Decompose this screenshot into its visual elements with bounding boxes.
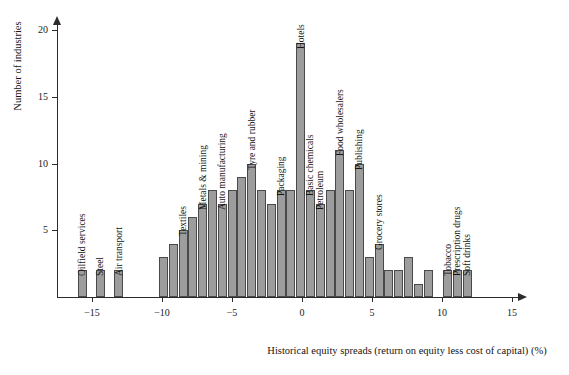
- histogram-bar: [277, 190, 286, 297]
- x-axis-tick-label: 10: [427, 307, 457, 318]
- y-axis-tick-label: 20: [22, 25, 48, 35]
- histogram-bar: [365, 257, 374, 297]
- histogram-bar: [286, 190, 295, 297]
- histogram-bar: [345, 190, 354, 297]
- histogram-bar: [414, 284, 423, 297]
- histogram-bar: [375, 244, 384, 297]
- histogram-bar: [179, 230, 188, 297]
- bar-category-label: Publishing: [354, 129, 364, 170]
- histogram-bar: [335, 150, 344, 297]
- x-axis-tick: [372, 297, 373, 302]
- histogram-bar: [188, 217, 197, 297]
- x-axis-tick: [232, 297, 233, 302]
- bar-category-label: Oilfield services: [77, 214, 87, 277]
- histogram-bar: [198, 204, 207, 297]
- bar-category-label: Basic chemicals: [305, 135, 315, 196]
- histogram-bar: [218, 204, 227, 297]
- bar-category-label: Auto manufacturing: [217, 133, 227, 210]
- histogram-bar: [355, 164, 364, 298]
- histogram-figure: 5101520−15−10−5051015Oilfield servicesSt…: [0, 0, 569, 375]
- bar-category-label: Air transport: [114, 227, 124, 276]
- y-axis-tick: [52, 30, 57, 31]
- histogram-bar: [384, 270, 393, 297]
- x-axis-title: Historical equity spreads (return on equ…: [245, 345, 569, 357]
- y-axis-line: [57, 24, 58, 298]
- histogram-bar: [404, 257, 413, 297]
- y-axis-title: Number of industries: [12, 1, 24, 131]
- histogram-bar: [208, 190, 217, 297]
- y-axis-tick-label: 10: [22, 159, 48, 169]
- histogram-bar: [237, 177, 246, 297]
- bar-category-label: Grocery stores: [374, 194, 384, 250]
- bar-category-label: Petroleum: [315, 170, 325, 209]
- x-axis-tick: [302, 297, 303, 302]
- y-axis-arrow-icon: [53, 16, 61, 25]
- bar-category-label: Textiles: [178, 206, 188, 236]
- x-axis-tick-label: −5: [217, 307, 247, 318]
- x-axis-tick: [512, 297, 513, 302]
- x-axis-line: [57, 297, 519, 298]
- plot-area: 5101520−15−10−5051015Oilfield servicesSt…: [0, 0, 569, 375]
- histogram-bar: [394, 270, 403, 297]
- y-axis-tick-label: 15: [22, 92, 48, 102]
- bar-category-label: Prescription drugs: [452, 207, 462, 276]
- x-axis-tick-label: 15: [497, 307, 527, 318]
- y-axis-tick: [52, 164, 57, 165]
- y-axis-tick-label: 5: [22, 225, 48, 235]
- x-axis-tick-label: 5: [357, 307, 387, 318]
- y-axis-tick: [52, 97, 57, 98]
- histogram-bar: [326, 190, 335, 297]
- histogram-bar: [228, 190, 237, 297]
- y-axis-tick: [52, 230, 57, 231]
- x-axis-tick-label: 0: [287, 307, 317, 318]
- bar-category-label: Soft drinks: [462, 234, 472, 276]
- histogram-bar: [306, 190, 315, 297]
- x-axis-tick: [442, 297, 443, 302]
- bar-category-label: Hotels: [296, 25, 306, 50]
- histogram-bar: [424, 270, 433, 297]
- histogram-bar: [296, 43, 305, 297]
- histogram-bar: [247, 164, 256, 298]
- histogram-bar: [169, 244, 178, 297]
- x-axis-arrow-icon: [518, 293, 527, 301]
- x-axis-tick: [162, 297, 163, 302]
- histogram-bar: [267, 204, 276, 297]
- bar-category-label: Tyre and rubber: [247, 109, 257, 170]
- x-axis-tick: [92, 297, 93, 302]
- bar-category-label: Food wholesalers: [335, 89, 345, 156]
- bar-category-label: Steel: [95, 257, 105, 276]
- x-axis-tick-label: −15: [77, 307, 107, 318]
- bar-category-label: Packaging: [276, 157, 286, 197]
- histogram-bar: [316, 204, 325, 297]
- x-axis-tick-label: −10: [147, 307, 177, 318]
- histogram-bar: [159, 257, 168, 297]
- bar-category-label: Metals & mining: [198, 145, 208, 210]
- histogram-bar: [257, 190, 266, 297]
